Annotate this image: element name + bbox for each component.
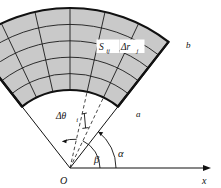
polar-sector-diagram: S ij Δr j Δθ i a b O α β x [0,0,221,188]
outer-radius-label: b [186,40,191,50]
figure-container: S ij Δr j Δθ i a b O α β x [0,0,221,188]
inner-radius-label: a [136,109,141,119]
cell-area-label-subscript: ij [106,47,110,54]
cell-area-label: S [99,42,104,52]
radial-increment-label-group: Δr j [120,40,145,54]
radial-increment-label: Δr [120,42,131,52]
origin-label: O [60,175,67,186]
angular-increment-label-subscript: i [76,116,78,123]
outer-angle-label: α [118,148,124,159]
angular-increment-label: Δθ [55,111,67,121]
radial-increment-label-subscript: j [136,47,139,54]
cell-area-label-group: S ij [97,40,120,54]
inner-angle-label: β [93,154,100,165]
x-axis-label: x [201,175,207,186]
